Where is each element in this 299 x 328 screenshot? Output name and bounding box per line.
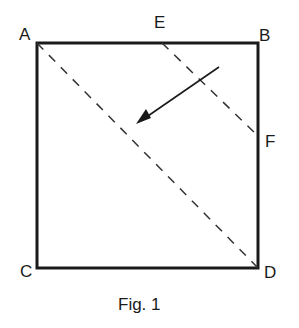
point-label-a: A — [19, 26, 30, 43]
figure-caption: Fig. 1 — [118, 296, 161, 313]
point-label-e: E — [154, 14, 165, 31]
point-label-d: D — [264, 264, 276, 281]
point-label-c: C — [20, 263, 32, 280]
dashed-diagonal-ad — [37, 43, 258, 268]
point-label-b: B — [259, 27, 270, 44]
fold-arrow-head-icon — [136, 109, 151, 124]
dashed-line-ef — [162, 43, 258, 136]
point-label-f: F — [265, 133, 275, 150]
fold-arrow-shaft — [145, 67, 219, 118]
fold-diagram — [0, 0, 299, 328]
